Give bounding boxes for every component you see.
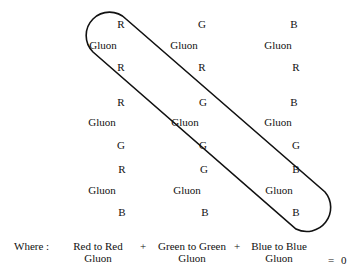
col1-block1-bottom-letter: R [117,61,124,73]
col3-block3-bottom-letter: B [292,206,299,218]
equation-term-red: Red to Red Gluon [70,240,126,264]
term-red-line1: Red to Red [70,240,126,252]
col2-block3-gluon: Gluon [173,184,201,196]
col2-block3-bottom-letter: B [201,206,208,218]
col1-block2-gluon: Gluon [88,116,116,128]
equation-result: 0 [341,254,347,266]
term-green-line1: Green to Green [156,240,228,252]
col2-block1-gluon: Gluon [170,39,198,51]
col1-block2-top-letter: R [117,96,124,108]
col1-block1-top-letter: R [117,18,124,30]
col3-block1-gluon: Gluon [264,39,292,51]
plus-operator-2: + [234,240,240,252]
col1-block1-gluon: Gluon [89,39,117,51]
col2-block3-top-letter: G [200,163,208,175]
term-blue-line1: Blue to Blue [248,240,310,252]
equation-prefix: Where : [14,240,49,252]
col1-block3-bottom-letter: B [118,206,125,218]
equals-sign: = [328,254,334,266]
col3-block3-top-letter: B [292,163,299,175]
col2-block1-bottom-letter: R [198,61,205,73]
col2-block2-top-letter: G [199,96,207,108]
col1-block3-gluon: Gluon [88,184,116,196]
col1-block2-bottom-letter: G [117,139,125,151]
equation-term-blue: Blue to Blue Gluon [248,240,310,264]
col1-block3-top-letter: R [118,163,125,175]
col2-block2-gluon: Gluon [171,116,199,128]
col3-block2-bottom-letter: G [292,139,300,151]
equation-term-green: Green to Green Gluon [156,240,228,264]
col3-block2-gluon: Gluon [264,116,292,128]
col3-block1-top-letter: B [290,18,297,30]
term-blue-line2: Gluon [248,252,310,264]
term-green-line2: Gluon [156,252,228,264]
col2-block1-top-letter: G [198,18,206,30]
col3-block2-top-letter: B [290,96,297,108]
term-red-line2: Gluon [70,252,126,264]
plus-operator-1: + [140,240,146,252]
col2-block2-bottom-letter: G [199,139,207,151]
col3-block3-gluon: Gluon [265,184,293,196]
col3-block1-bottom-letter: R [292,61,299,73]
